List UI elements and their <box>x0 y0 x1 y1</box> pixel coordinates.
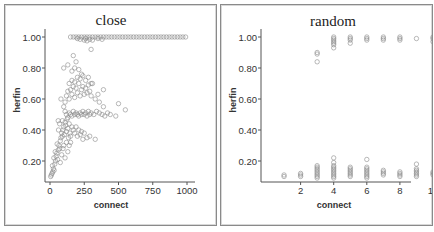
svg-text:0.20: 0.20 <box>23 156 42 167</box>
y-axis-label: herfin <box>12 87 22 112</box>
svg-text:2: 2 <box>298 185 303 196</box>
svg-text:6: 6 <box>364 185 369 196</box>
scatter-plot-close: close connect herfin 0.200.400.600.801.0… <box>5 5 216 225</box>
svg-text:0: 0 <box>47 185 52 196</box>
chart-panel-close: close connect herfin 0.200.400.600.801.0… <box>4 4 217 226</box>
svg-text:0.40: 0.40 <box>239 125 258 136</box>
svg-text:1.00: 1.00 <box>239 32 258 43</box>
svg-text:750: 750 <box>145 185 161 196</box>
y-axis-label: herfin <box>228 87 238 112</box>
svg-text:0.80: 0.80 <box>239 63 258 74</box>
x-axis-label: connect <box>94 200 129 210</box>
svg-text:0.60: 0.60 <box>23 94 42 105</box>
svg-text:0.20: 0.20 <box>239 156 258 167</box>
data-points <box>48 35 187 179</box>
svg-text:500: 500 <box>111 185 127 196</box>
chart-title: close <box>96 12 127 28</box>
svg-text:4: 4 <box>331 185 336 196</box>
svg-text:10: 10 <box>428 185 432 196</box>
axes: 0.200.400.600.801.00246810 <box>239 29 433 196</box>
chart-title: random <box>310 13 356 29</box>
svg-text:0.80: 0.80 <box>23 63 42 74</box>
scatter-plot-random: random connect herfin 0.200.400.600.801.… <box>221 5 432 225</box>
svg-text:0.40: 0.40 <box>23 125 42 136</box>
svg-text:250: 250 <box>76 185 92 196</box>
svg-text:1.00: 1.00 <box>23 32 42 43</box>
svg-text:8: 8 <box>397 185 402 196</box>
svg-text:1000: 1000 <box>176 185 197 196</box>
svg-text:0.60: 0.60 <box>239 94 258 105</box>
x-axis-label: connect <box>317 200 352 210</box>
chart-panel-random: random connect herfin 0.200.400.600.801.… <box>220 4 433 226</box>
data-points <box>282 35 432 180</box>
